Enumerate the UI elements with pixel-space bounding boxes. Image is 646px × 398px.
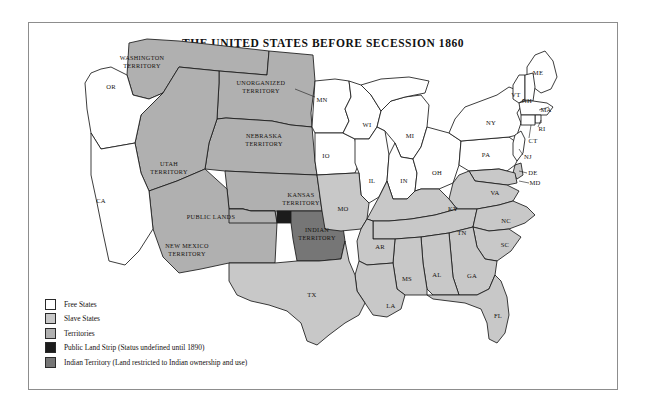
map-label: NC	[501, 217, 511, 224]
map-label: MA	[540, 106, 551, 113]
map-page: THE UNITED STATES BEFORE SECESSION 1860	[0, 0, 646, 398]
legend-swatch-indian-territory	[45, 357, 56, 368]
map-label: AL	[432, 271, 441, 278]
legend-swatch-public-land-strip	[45, 342, 56, 353]
map-label: CA	[96, 197, 106, 204]
map-label: NEBRASKATERRITORY	[245, 133, 283, 148]
map-label: DE	[528, 169, 537, 176]
map-frame: THE UNITED STATES BEFORE SECESSION 1860	[28, 22, 618, 390]
map-label: NH	[522, 97, 532, 104]
map-label: KANSASTERRITORY	[282, 192, 320, 207]
map-label: KY	[448, 205, 458, 212]
map-label: CT	[529, 137, 538, 144]
map-label: UNORGANIZEDTERRITORY	[237, 80, 286, 95]
map-label: IN	[400, 177, 407, 184]
region-minnesota	[312, 79, 351, 133]
legend-label-slave-states: Slave States	[64, 314, 100, 323]
map-label: WASHINGTONTERRITORY	[120, 55, 165, 70]
region-connecticut	[521, 115, 535, 125]
map-label: AR	[375, 243, 385, 250]
map-label: MN	[316, 96, 327, 103]
map-label: FL	[494, 312, 502, 319]
map-label: WI	[363, 121, 372, 128]
map-label: IO	[322, 152, 329, 159]
legend-label-territories: Territories	[64, 329, 95, 338]
region-public-lands-strip-west	[229, 209, 277, 223]
map-label: MS	[402, 275, 412, 282]
map-label: SC	[501, 241, 510, 248]
region-mississippi	[393, 237, 427, 295]
legend-item-slave-states: Slave States	[45, 313, 247, 324]
legend-item-public-land-strip: Public Land Strip (Status undefined unti…	[45, 342, 247, 353]
legend-swatch-free-states	[45, 299, 56, 310]
map-label: PA	[482, 151, 490, 158]
map-label: VT	[511, 91, 520, 98]
legend-label-public-land-strip: Public Land Strip (Status undefined unti…	[64, 343, 204, 352]
map-label: NEW MEXICOTERRITORY	[165, 243, 209, 258]
map-label: NJ	[524, 153, 532, 160]
map-label: TN	[457, 229, 466, 236]
map-legend: Free States Slave States Territories Pub…	[45, 299, 247, 371]
map-label: MO	[337, 205, 348, 212]
map-label: IL	[369, 177, 376, 184]
map-label: MI	[406, 132, 415, 139]
map-label: MD	[529, 179, 540, 186]
map-label: OR	[106, 83, 116, 90]
legend-label-indian-territory: Indian Territory (Land restricted to Ind…	[64, 358, 247, 367]
map-label: GA	[467, 272, 477, 279]
map-label: RI	[538, 125, 545, 132]
region-public-land-strip	[277, 211, 291, 223]
map-label: LA	[386, 302, 395, 309]
map-label: PUBLIC LANDS	[187, 213, 236, 220]
legend-swatch-slave-states	[45, 313, 56, 324]
legend-item-indian-territory: Indian Territory (Land restricted to Ind…	[45, 357, 247, 368]
legend-item-territories: Territories	[45, 328, 247, 339]
map-label: OH	[432, 169, 442, 176]
legend-label-free-states: Free States	[64, 300, 97, 309]
map-label: TX	[307, 291, 316, 298]
map-label: ME	[533, 69, 543, 76]
map-label: NY	[486, 119, 496, 126]
legend-swatch-territories	[45, 328, 56, 339]
legend-item-free-states: Free States	[45, 299, 247, 310]
map-label: VA	[490, 189, 499, 196]
